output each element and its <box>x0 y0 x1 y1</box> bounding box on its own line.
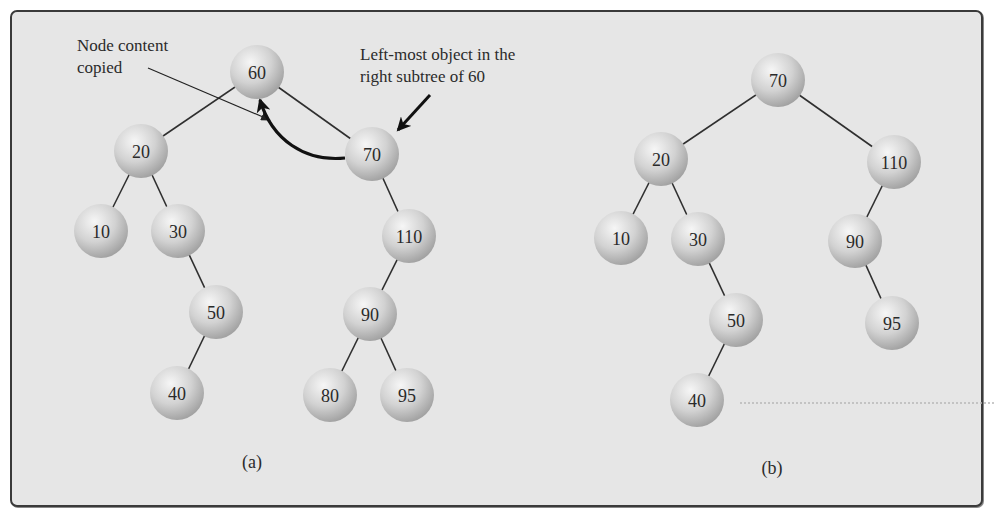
tree-node-30: 30 <box>151 204 205 258</box>
tree-node-50: 50 <box>709 293 763 347</box>
tree-node-30: 30 <box>671 212 725 266</box>
tree-edges <box>101 72 894 400</box>
node-label: 110 <box>881 153 907 173</box>
tree-node-110: 110 <box>867 135 921 189</box>
tree-node-70: 70 <box>345 127 399 181</box>
tree-node-110: 110 <box>382 209 436 263</box>
tree-node-95: 95 <box>865 296 919 350</box>
tree-node-10: 10 <box>594 211 648 265</box>
tree-node-10: 10 <box>74 204 128 258</box>
annotation-line-2: right subtree of 60 <box>360 67 485 86</box>
bold-arrow-icon <box>398 95 430 130</box>
tree-node-20: 20 <box>634 132 688 186</box>
tree-nodes: 6020701030110509040809570201101030905095… <box>74 45 921 427</box>
node-label: 10 <box>92 222 110 242</box>
annotation-line-1: Left-most object in the <box>360 45 515 64</box>
tree-node-40: 40 <box>670 373 724 427</box>
node-label: 20 <box>132 142 150 162</box>
node-label: 90 <box>361 305 379 325</box>
tree-node-80: 80 <box>303 368 357 422</box>
tree-node-50: 50 <box>189 285 243 339</box>
node-label: 70 <box>769 71 787 91</box>
node-label: 95 <box>883 314 901 334</box>
tree-node-20: 20 <box>114 124 168 178</box>
caption-b: (b) <box>762 458 783 479</box>
node-label: 10 <box>612 229 630 249</box>
tree-node-95: 95 <box>380 368 434 422</box>
tree-node-40: 40 <box>150 366 204 420</box>
node-label: 20 <box>652 150 670 170</box>
annotation-left-most-object: Left-most object in the right subtree of… <box>360 45 515 130</box>
node-label: 50 <box>207 303 225 323</box>
tree-node-60: 60 <box>230 45 284 99</box>
copy-arrow-icon <box>260 100 345 158</box>
node-label: 70 <box>363 145 381 165</box>
tree-node-90: 90 <box>343 287 397 341</box>
tree-node-90: 90 <box>828 214 882 268</box>
node-label: 40 <box>688 391 706 411</box>
bst-deletion-diagram: Node content copied Left-most object in … <box>0 0 997 517</box>
node-label: 40 <box>168 384 186 404</box>
node-label: 90 <box>846 232 864 252</box>
node-label: 50 <box>727 311 745 331</box>
node-label: 60 <box>248 63 266 83</box>
node-label: 110 <box>396 227 422 247</box>
annotation-line-1: Node content <box>77 36 168 55</box>
node-label: 30 <box>169 222 187 242</box>
caption-a: (a) <box>242 452 262 473</box>
node-label: 30 <box>689 230 707 250</box>
annotation-line-2: copied <box>77 58 123 77</box>
node-label: 80 <box>321 386 339 406</box>
tree-node-70: 70 <box>751 53 805 107</box>
node-label: 95 <box>398 386 416 406</box>
